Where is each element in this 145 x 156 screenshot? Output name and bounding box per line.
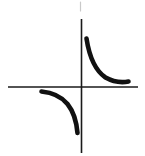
plot-canvas	[0, 0, 145, 156]
hyperbola-graph-figure	[0, 0, 145, 156]
plot-background	[0, 0, 145, 156]
